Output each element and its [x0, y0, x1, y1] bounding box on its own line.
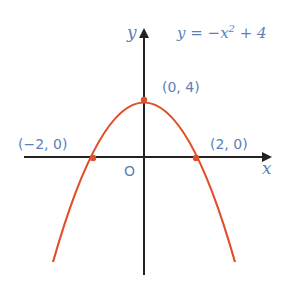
root-point-left — [90, 155, 96, 161]
vertex-point — [141, 97, 147, 103]
parabola-graph: y x O y = −x2 + 4 (0, 4) (−2, 0) (2, 0) — [0, 0, 285, 289]
vertex-label: (0, 4) — [162, 79, 200, 95]
x-axis-label: x — [262, 158, 272, 178]
root-label-left: (−2, 0) — [18, 136, 67, 152]
equation-label: y = −x2 + 4 — [176, 23, 267, 42]
root-label-right: (2, 0) — [210, 136, 248, 152]
root-point-right — [193, 155, 199, 161]
origin-label: O — [124, 163, 135, 179]
y-axis-label: y — [126, 22, 137, 42]
